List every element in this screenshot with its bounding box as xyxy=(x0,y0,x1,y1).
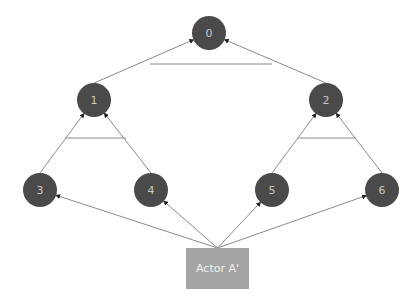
node-label: 1 xyxy=(91,94,98,107)
node-2[interactable]: 2 xyxy=(309,83,343,117)
node-label: 6 xyxy=(379,184,386,197)
actor-label: Actor A' xyxy=(196,262,239,275)
node-1[interactable]: 1 xyxy=(77,83,111,117)
node-label: 4 xyxy=(148,184,155,197)
node-label: 0 xyxy=(206,27,213,40)
edge-1-to-0 xyxy=(94,40,193,83)
edge-4-to-1 xyxy=(104,113,151,173)
tree-diagram: 0123456 Actor A' xyxy=(0,0,420,306)
node-5[interactable]: 5 xyxy=(255,173,289,207)
edges xyxy=(40,40,382,248)
nodes: 0123456 xyxy=(23,16,399,207)
edge-actor-to-5 xyxy=(218,202,261,248)
node-label: 5 xyxy=(269,184,276,197)
actor-box[interactable]: Actor A' xyxy=(186,248,249,289)
node-3[interactable]: 3 xyxy=(23,173,57,207)
edge-actor-to-3 xyxy=(56,195,217,248)
edge-actor-to-4 xyxy=(164,201,218,248)
edge-5-to-2 xyxy=(272,114,316,173)
edge-3-to-1 xyxy=(40,114,84,173)
node-4[interactable]: 4 xyxy=(134,173,168,207)
edge-6-to-2 xyxy=(336,113,382,173)
node-label: 3 xyxy=(37,184,44,197)
edge-actor-to-6 xyxy=(218,196,366,248)
node-label: 2 xyxy=(323,94,330,107)
node-6[interactable]: 6 xyxy=(365,173,399,207)
edge-2-to-0 xyxy=(225,40,326,83)
node-0[interactable]: 0 xyxy=(192,16,226,50)
